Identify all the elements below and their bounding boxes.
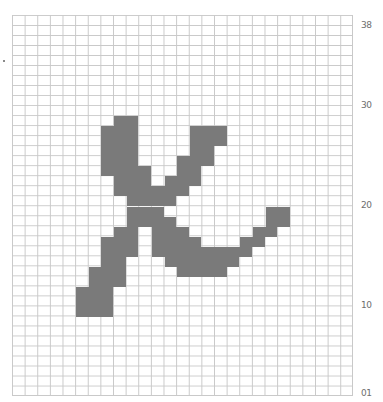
filled-cell-run <box>89 277 126 287</box>
row-label-10: 10 <box>361 300 371 310</box>
filled-cell-run <box>89 267 126 277</box>
filled-cell-run <box>101 156 138 166</box>
filled-cell-run <box>101 247 138 257</box>
left-margin-mark <box>3 60 5 62</box>
filled-cell-run <box>177 166 201 176</box>
filled-cell-run <box>114 186 189 196</box>
filled-cell-run <box>76 287 113 297</box>
filled-cell-run <box>127 217 177 227</box>
row-label-20: 20 <box>361 200 371 210</box>
filled-cell-run <box>253 227 277 237</box>
row-label-30: 30 <box>361 100 371 110</box>
filled-cell-run <box>101 257 125 267</box>
filled-cell-run <box>76 307 113 317</box>
filled-cell-run <box>127 207 164 217</box>
filled-cell-run <box>165 176 202 186</box>
filled-cell-run <box>165 257 240 267</box>
filled-cell-run <box>266 217 290 227</box>
filled-cell-run <box>101 146 138 156</box>
filled-cell-run <box>177 267 227 277</box>
filled-cell-run <box>76 297 113 307</box>
row-label-01: 01 <box>361 388 371 398</box>
filled-cell-run <box>101 126 138 136</box>
filled-cell-run <box>127 196 177 206</box>
filled-cell-run <box>240 237 264 247</box>
filled-cell-run <box>101 237 138 247</box>
filled-cell-run <box>190 146 214 156</box>
filled-cell-run <box>101 136 138 146</box>
filled-cell-run <box>152 227 189 237</box>
filled-cell-run <box>114 176 151 186</box>
filled-cell-run <box>177 156 214 166</box>
filled-cell-run <box>190 126 227 136</box>
filled-cell-run <box>114 227 138 237</box>
filled-cell-run <box>152 247 252 257</box>
filled-cell-run <box>114 116 138 126</box>
pixel-grid <box>12 15 353 396</box>
row-label-38: 38 <box>361 20 371 30</box>
filled-cell-run <box>101 166 151 176</box>
filled-cell-run <box>266 207 290 217</box>
filled-cell-run <box>152 237 202 247</box>
filled-cell-run <box>190 136 227 146</box>
